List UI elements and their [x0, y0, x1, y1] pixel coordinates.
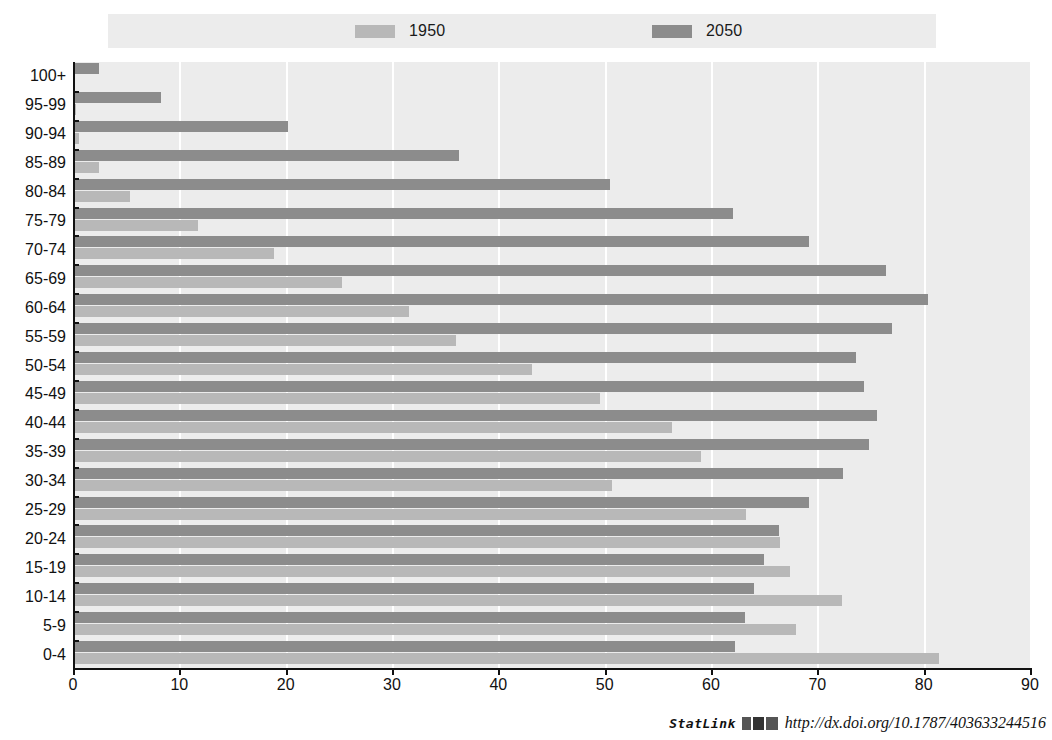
bar-row [73, 235, 1030, 264]
bar-2050 [73, 497, 809, 508]
bar-2050 [73, 179, 610, 190]
bar-1950 [73, 162, 99, 173]
x-axis-tick [711, 668, 713, 675]
bar-row [73, 91, 1030, 120]
statlink-url[interactable]: http://dx.doi.org/10.1787/403633244516 [785, 714, 1046, 731]
bar-row [73, 496, 1030, 525]
legend-label-2050: 2050 [706, 22, 742, 40]
y-axis-label-40-44: 40-44 [0, 415, 66, 431]
y-axis-tick [73, 264, 79, 266]
y-axis-tick [73, 496, 79, 498]
chart-plot-area [73, 62, 1030, 669]
bar-row [73, 467, 1030, 496]
y-axis-label-15-19: 15-19 [0, 560, 66, 576]
bar-2050 [73, 381, 864, 392]
x-axis-label-90: 90 [1021, 676, 1039, 694]
y-axis-tick [73, 438, 79, 440]
barcode-icon [742, 717, 778, 730]
x-axis-tick [817, 668, 819, 675]
y-axis-tick [73, 582, 79, 584]
y-axis-tick [73, 322, 79, 324]
bar-2050 [73, 294, 928, 305]
bar-2050 [73, 265, 886, 276]
legend-item-1950: 1950 [355, 22, 445, 40]
bar-row [73, 438, 1030, 467]
bar-row [73, 62, 1030, 91]
x-axis-label-50: 50 [596, 676, 614, 694]
bar-1950 [73, 191, 130, 202]
plot-background [73, 62, 1030, 669]
y-axis-labels: 100+95-9990-9485-8980-8475-7970-7465-696… [0, 62, 66, 669]
y-axis-label-75-79: 75-79 [0, 213, 66, 229]
y-axis-tick [73, 207, 79, 209]
x-axis-tick [1030, 668, 1032, 675]
bar-2050 [73, 468, 843, 479]
y-axis-label-10-14: 10-14 [0, 589, 66, 605]
y-axis-label-95-99: 95-99 [0, 97, 66, 113]
bar-1950 [73, 480, 612, 491]
bar-2050 [73, 323, 892, 334]
y-axis-label-50-54: 50-54 [0, 358, 66, 374]
bar-1950 [73, 595, 842, 606]
x-axis-labels: 0102030405060708090 [0, 676, 1052, 706]
x-axis-label-20: 20 [277, 676, 295, 694]
bar-row [73, 351, 1030, 380]
x-axis-label-40: 40 [489, 676, 507, 694]
y-axis-tick [73, 91, 79, 93]
bar-2050 [73, 554, 764, 565]
bar-1950 [73, 509, 746, 520]
bar-2050 [73, 439, 869, 450]
y-axis-line [73, 62, 75, 669]
y-axis-label-55-59: 55-59 [0, 329, 66, 345]
y-axis-label-65-69: 65-69 [0, 271, 66, 287]
y-axis-tick [73, 178, 79, 180]
y-axis-label-30-34: 30-34 [0, 473, 66, 489]
bar-1950 [73, 422, 672, 433]
chart-legend: 1950 2050 [108, 14, 936, 48]
bar-1950 [73, 220, 198, 231]
bar-row [73, 553, 1030, 582]
bar-1950 [73, 248, 274, 259]
x-axis-tick [179, 668, 181, 675]
y-axis-label-60-64: 60-64 [0, 300, 66, 316]
bar-2050 [73, 352, 856, 363]
x-axis-tick [605, 668, 607, 675]
bar-2050 [73, 92, 161, 103]
bar-row [73, 264, 1030, 293]
bar-row [73, 120, 1030, 149]
y-axis-tick [73, 611, 79, 613]
x-axis-tick [924, 668, 926, 675]
y-axis-tick [73, 351, 79, 353]
x-axis-tick [392, 668, 394, 675]
y-axis-tick [73, 235, 79, 237]
bar-2050 [73, 410, 877, 421]
x-axis-label-80: 80 [915, 676, 933, 694]
y-axis-tick [73, 467, 79, 469]
y-axis-label-25-29: 25-29 [0, 502, 66, 518]
bar-row [73, 582, 1030, 611]
y-axis-label-0-4: 0-4 [0, 647, 66, 663]
bar-2050 [73, 208, 733, 219]
bar-2050 [73, 121, 288, 132]
bar-row [73, 524, 1030, 553]
y-axis-tick [73, 409, 79, 411]
y-axis-tick [73, 380, 79, 382]
bar-row [73, 178, 1030, 207]
y-axis-tick [73, 149, 79, 151]
legend-item-2050: 2050 [652, 22, 742, 40]
bar-1950 [73, 306, 409, 317]
y-axis-tick [73, 293, 79, 295]
bar-row [73, 149, 1030, 178]
bar-2050 [73, 612, 745, 623]
bar-1950 [73, 364, 532, 375]
bar-2050 [73, 583, 754, 594]
y-axis-label-70-74: 70-74 [0, 242, 66, 258]
statlink-footer: StatLinkhttp://dx.doi.org/10.1787/403633… [0, 714, 1046, 732]
x-axis-tick [73, 668, 75, 675]
y-axis-label-20-24: 20-24 [0, 531, 66, 547]
y-axis-tick [73, 553, 79, 555]
legend-label-1950: 1950 [409, 22, 445, 40]
y-axis-label-85-89: 85-89 [0, 155, 66, 171]
statlink-label: StatLink [669, 716, 736, 731]
bar-1950 [73, 277, 342, 288]
